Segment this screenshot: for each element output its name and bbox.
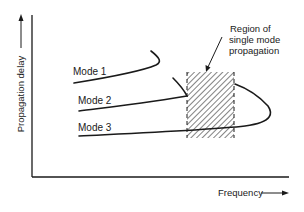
region-annotation: Region of single mode propagation bbox=[206, 23, 281, 72]
mode-2-label: Mode 2 bbox=[78, 95, 112, 106]
mode-3-label: Mode 3 bbox=[78, 122, 112, 133]
y-axis-label-group: Propagation delay bbox=[15, 14, 26, 132]
x-axis-label: Frequency bbox=[218, 187, 263, 198]
propagation-delay-diagram: Propagation delay Frequency Mode 1 Mode … bbox=[0, 0, 304, 212]
region-annotation-leader bbox=[208, 37, 222, 67]
region-annotation-line-1: Region of bbox=[230, 23, 271, 34]
y-axis-label: Propagation delay bbox=[15, 55, 26, 132]
y-axis-arrow-head-icon bbox=[19, 14, 24, 21]
mode-labels: Mode 1 Mode 2 Mode 3 bbox=[73, 66, 112, 133]
x-axis-arrow-head-icon bbox=[282, 191, 289, 196]
x-axis-label-group: Frequency bbox=[218, 187, 289, 198]
region-annotation-line-2: single mode bbox=[229, 34, 280, 45]
mode-1-label: Mode 1 bbox=[73, 66, 107, 77]
region-annotation-line-3: propagation bbox=[229, 45, 279, 56]
